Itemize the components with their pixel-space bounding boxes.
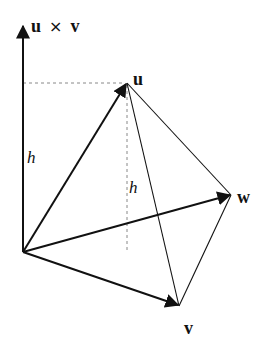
vector-v-label: v	[184, 318, 193, 338]
edge-w-v	[179, 195, 231, 306]
vector-v-arrow	[23, 252, 178, 305]
edge-u-w	[127, 83, 231, 195]
vector-w-label: w	[237, 187, 250, 207]
vector-u-arrow	[23, 84, 126, 252]
parallelepiped-volume-diagram: u × v u w v h h	[0, 0, 267, 345]
height-label-axis: h	[27, 148, 36, 167]
vector-u-label: u	[133, 69, 143, 89]
cross-product-label: u × v	[31, 16, 79, 36]
height-label-dashed: h	[129, 178, 138, 197]
